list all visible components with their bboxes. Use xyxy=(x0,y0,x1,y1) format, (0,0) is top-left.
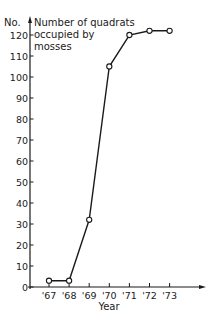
y-axis-title-line-2: occupied by xyxy=(34,29,95,40)
y-tick-label: 90 xyxy=(16,93,28,104)
y-tick-label: 20 xyxy=(16,240,28,251)
x-axis-arrow-icon xyxy=(199,285,206,289)
x-axis-title: Year xyxy=(97,301,120,312)
y-axis-title-line-3: mosses xyxy=(34,41,72,52)
y-axis-arrow-icon xyxy=(28,16,32,23)
x-tick-label: '70 xyxy=(102,290,117,301)
x-tick-label: '71 xyxy=(122,290,137,301)
y-tick-label: 60 xyxy=(16,156,28,167)
data-series xyxy=(46,28,172,283)
data-point-marker xyxy=(167,28,172,33)
x-tick-label: '67 xyxy=(42,290,57,301)
data-point-marker xyxy=(127,32,132,37)
data-point-marker xyxy=(107,64,112,69)
y-tick-label: 0 xyxy=(22,282,28,293)
y-tick-label: 70 xyxy=(16,135,28,146)
data-point-marker xyxy=(46,278,51,283)
y-tick-label: 10 xyxy=(16,261,28,272)
y-tick-label: 100 xyxy=(10,72,28,83)
x-tick-label: '73 xyxy=(162,290,177,301)
data-point-marker xyxy=(67,278,72,283)
y-tick-label: 80 xyxy=(16,114,28,125)
y-tick-label: 50 xyxy=(16,177,28,188)
y-tick-label: 120 xyxy=(10,30,28,41)
y-tick-label: 110 xyxy=(10,51,28,62)
line-chart: 0102030405060708090100110120 '67'68'69'7… xyxy=(0,0,214,327)
x-ticks: '67'68'69'70'71'72'73 xyxy=(42,283,177,301)
y-tick-label: 40 xyxy=(16,198,28,209)
y-axis-title-line-1: Number of quadrats xyxy=(34,17,135,28)
y-axis-prefix: No. xyxy=(4,17,21,28)
data-point-marker xyxy=(147,28,152,33)
axes xyxy=(28,16,206,289)
x-tick-label: '68 xyxy=(62,290,77,301)
y-tick-label: 30 xyxy=(16,219,28,230)
x-tick-label: '69 xyxy=(82,290,97,301)
x-tick-label: '72 xyxy=(142,290,157,301)
data-point-marker xyxy=(87,217,92,222)
